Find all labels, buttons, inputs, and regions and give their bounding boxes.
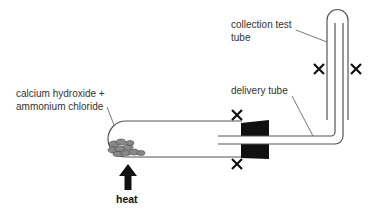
- heat-arrow-icon: [119, 164, 137, 190]
- collection-tube-label: collection test tube: [231, 18, 292, 44]
- collection-label-line1: collection test: [231, 18, 292, 31]
- reagents-label-line1: calcium hydroxide +: [16, 87, 105, 100]
- rubber-stopper: [241, 120, 269, 159]
- collection-label-line2: tube: [231, 31, 292, 44]
- leader-lines: [107, 30, 327, 136]
- apparatus-diagram: calcium hydroxide + ammonium chloride co…: [0, 0, 376, 212]
- heat-label: heat: [116, 193, 138, 205]
- delivery-tube-label: delivery tube: [231, 84, 288, 97]
- reagents-label-line2: ammonium chloride: [16, 100, 105, 113]
- collection-test-tube: [327, 10, 348, 120]
- solid-reagents: [108, 139, 145, 157]
- reagents-label: calcium hydroxide + ammonium chloride: [16, 87, 105, 113]
